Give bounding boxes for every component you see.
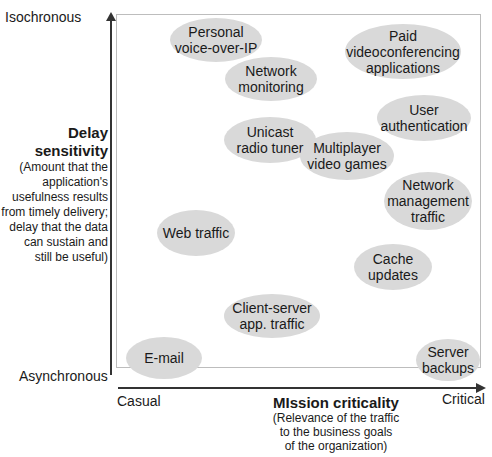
x-axis-right-label: Critical (442, 391, 485, 407)
bubble-network-monitoring: Network monitoring (225, 57, 317, 101)
y-axis-top-label: Isochronous (5, 9, 81, 25)
bubble-server-backups: Server backups (416, 339, 480, 381)
y-axis-title: Delay sensitivity (0, 124, 108, 160)
bubble-user-authentication: User authentication (377, 95, 471, 141)
x-axis-description: (Relevance of the traffic to the busines… (236, 411, 436, 453)
bubble-paid-videoconferencing: Paid videoconferencing applications (345, 24, 461, 79)
bubble-cache-updates: Cache updates (354, 244, 432, 290)
y-axis-title-block: Delay sensitivity (Amount that the appli… (0, 124, 108, 265)
y-axis-arrow-icon (106, 12, 116, 21)
bubble-network-management-traffic: Network management traffic (384, 172, 472, 230)
y-axis-line (110, 18, 112, 375)
bubble-personal-voip: Personal voice-over-IP (170, 18, 262, 62)
x-axis-title: MIssion criticality (236, 394, 436, 411)
bubble-client-server-traffic: Client-server app. traffic (224, 294, 320, 338)
bubble-web-traffic: Web traffic (157, 210, 235, 256)
y-axis-description: (Amount that the application's usefulnes… (0, 160, 108, 265)
bubble-email: E-mail (126, 337, 202, 379)
x-axis-line (118, 387, 478, 389)
y-axis-bottom-label: Asynchronous (19, 368, 108, 384)
x-axis-title-block: MIssion criticality (Relevance of the tr… (236, 394, 436, 453)
x-axis-left-label: Casual (117, 393, 161, 409)
bubble-multiplayer-video-games: Multiplayer video games (300, 132, 394, 180)
